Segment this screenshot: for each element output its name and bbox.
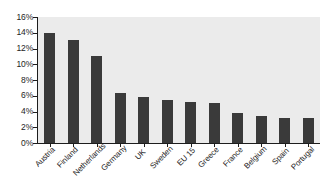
y-axis-tick-label: 6%: [0, 91, 33, 100]
y-axis-tick-label: 16%: [0, 13, 33, 22]
x-axis-tick-mark: [191, 144, 192, 147]
y-axis-tick-mark: [33, 49, 37, 50]
bar: [232, 113, 243, 143]
bar: [185, 102, 196, 143]
bar-slot: [132, 17, 156, 143]
x-axis-tick-mark: [214, 144, 215, 147]
bar: [303, 118, 314, 143]
y-axis-tick-mark: [33, 33, 37, 34]
y-axis-tick-mark: [33, 96, 37, 97]
x-axis-line: [37, 143, 320, 144]
x-axis-tick-mark: [285, 144, 286, 147]
x-axis-tick-label: Greece: [197, 146, 221, 170]
x-axis-tick-mark: [261, 144, 262, 147]
x-axis-tick-label: Austria: [34, 146, 57, 169]
bar-slot: [179, 17, 203, 143]
bar-slot: [109, 17, 133, 143]
bar: [44, 33, 55, 143]
y-axis-tick-label: 12%: [0, 44, 33, 53]
bar: [68, 40, 79, 143]
bar: [138, 97, 149, 143]
x-axis-tick-mark: [50, 144, 51, 147]
bar: [209, 103, 220, 143]
y-axis-tick-label: 2%: [0, 123, 33, 132]
x-axis-tick-mark: [120, 144, 121, 147]
x-axis-tick-label: EU 15: [176, 146, 197, 167]
x-axis-tick-label: Portugal: [290, 145, 316, 171]
bar: [162, 100, 173, 143]
bar-slot: [156, 17, 180, 143]
x-axis-tick-mark: [144, 144, 145, 147]
y-axis: 0%2%4%6%8%10%12%14%16%: [0, 0, 33, 195]
bar-slot: [250, 17, 274, 143]
bar-slot: [226, 17, 250, 143]
x-axis-tick-mark: [238, 144, 239, 147]
bar-slot: [85, 17, 109, 143]
plot-area: [38, 17, 320, 143]
y-axis-tick-label: 14%: [0, 28, 33, 37]
bar-slot: [203, 17, 227, 143]
x-axis-tick-label: Netherlands: [72, 142, 107, 177]
bar-slot: [38, 17, 62, 143]
x-axis-tick-mark: [97, 144, 98, 147]
x-axis-tick-label: Spain: [271, 147, 291, 167]
bar-slot: [297, 17, 321, 143]
bar-slot: [62, 17, 86, 143]
x-axis-tick-label: Belgium: [243, 145, 269, 171]
y-axis-tick-mark: [33, 64, 37, 65]
x-axis-tick-label: France: [222, 146, 245, 169]
bar-chart-figure: 0%2%4%6%8%10%12%14%16% AustriaFinlandNet…: [0, 0, 321, 195]
x-axis-tick-mark: [73, 144, 74, 147]
y-axis-tick-mark: [33, 143, 37, 144]
y-axis-tick-mark: [33, 80, 37, 81]
x-axis-tick-mark: [167, 144, 168, 147]
bar-slot: [273, 17, 297, 143]
bar: [115, 93, 126, 143]
x-axis-tick-label: Sweden: [149, 145, 175, 171]
x-axis-tick-label: UK: [134, 149, 147, 162]
y-axis-tick-label: 0%: [0, 139, 33, 148]
bar: [91, 56, 102, 143]
bars-layer: [38, 17, 320, 143]
x-axis: AustriaFinlandNetherlandsGermanyUKSweden…: [38, 147, 320, 195]
y-axis-tick-label: 4%: [0, 107, 33, 116]
bar: [279, 118, 290, 143]
y-axis-tick-label: 10%: [0, 60, 33, 69]
y-axis-tick-mark: [33, 17, 37, 18]
y-axis-tick-label: 8%: [0, 76, 33, 85]
y-axis-tick-mark: [33, 112, 37, 113]
x-axis-tick-mark: [308, 144, 309, 147]
bar: [256, 116, 267, 143]
y-axis-tick-mark: [33, 127, 37, 128]
